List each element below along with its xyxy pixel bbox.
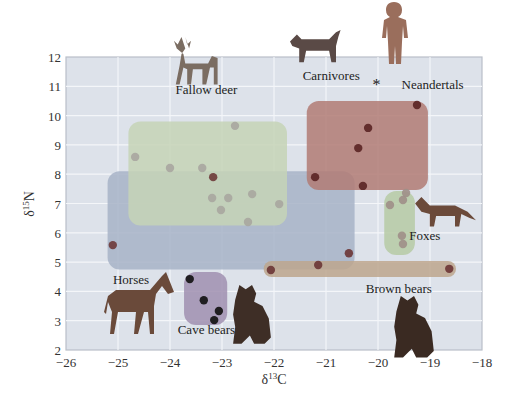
y-axis-title: δ15N <box>21 191 37 217</box>
carnivores-point <box>413 101 421 109</box>
carnivores-label: Carnivores <box>303 68 360 83</box>
carnivores-point <box>311 173 319 181</box>
fallow-deer-point <box>224 194 232 202</box>
cave-bears-point <box>200 296 208 304</box>
brown-bears-range-box <box>264 261 456 277</box>
neandertal-illustration <box>382 2 408 64</box>
y-tick-label: 8 <box>55 167 62 182</box>
y-tick-label: 11 <box>48 79 61 94</box>
fallow-deer-point <box>208 194 216 202</box>
x-tick-label: −20 <box>368 355 388 370</box>
foxes-label: Foxes <box>409 228 440 243</box>
y-tick-label: 2 <box>55 343 62 358</box>
x-tick-label: −24 <box>160 355 181 370</box>
fallow-deer-point <box>248 190 256 198</box>
x-tick-label: −23 <box>212 355 232 370</box>
fallow-deer-point <box>275 200 283 208</box>
horses-point <box>209 173 217 181</box>
brown-bears-point <box>445 265 453 273</box>
foxes-point <box>402 189 410 197</box>
y-tick-label: 9 <box>55 138 62 153</box>
y-axis-ticks: 23456789101112 <box>48 50 62 358</box>
fallow-deer-label: Fallow deer <box>176 82 238 97</box>
y-tick-label: 7 <box>55 197 62 212</box>
brown-bears-label: Brown bears <box>366 281 432 296</box>
brown-bears-point <box>267 266 275 274</box>
carnivores-range-box <box>307 101 428 190</box>
y-tick-label: 12 <box>48 50 61 65</box>
fallow-deer-point <box>198 164 206 172</box>
cave-bears-label: Cave bears <box>178 322 235 337</box>
x-tick-label: −22 <box>264 355 284 370</box>
fallow-deer-point <box>231 122 239 130</box>
x-tick-label: −18 <box>472 355 492 370</box>
y-tick-label: 5 <box>55 255 62 270</box>
y-tick-label: 3 <box>55 314 62 329</box>
cave-bears-point <box>186 275 194 283</box>
fallow-deer-range-box <box>128 121 287 225</box>
y-tick-label: 6 <box>55 226 62 241</box>
x-tick-label: −21 <box>316 355 336 370</box>
horses-label: Horses <box>113 272 149 287</box>
isotope-scatter-chart: * HorsesFallow deerCarnivoresFoxesBrown … <box>0 0 507 399</box>
cave-bears-point <box>215 307 223 315</box>
y-tick-label: 4 <box>55 284 62 299</box>
carnivores-point <box>364 124 372 132</box>
horses-point <box>109 241 117 249</box>
foxes-point <box>399 240 407 248</box>
carnivores-point <box>359 182 367 190</box>
foxes-point <box>398 232 406 240</box>
foxes-point <box>386 201 394 209</box>
x-axis-title: δ13C <box>262 371 287 387</box>
x-tick-label: −25 <box>108 355 128 370</box>
y-tick-label: 10 <box>48 109 61 124</box>
fallow-deer-point <box>244 218 252 226</box>
brown-bears-point <box>314 261 322 269</box>
x-tick-label: −19 <box>420 355 440 370</box>
fallow-deer-point <box>131 153 139 161</box>
x-axis-ticks: −26−25−24−23−22−21−20−19−18 <box>56 355 492 370</box>
fallow-deer-point <box>166 164 174 172</box>
fallow-deer-point <box>217 206 225 214</box>
neandertal-asterisk-marker: * <box>372 76 380 93</box>
carnivores-point <box>354 144 362 152</box>
brown-bears-point <box>345 249 353 257</box>
neandertals-label: Neandertals <box>402 77 464 92</box>
